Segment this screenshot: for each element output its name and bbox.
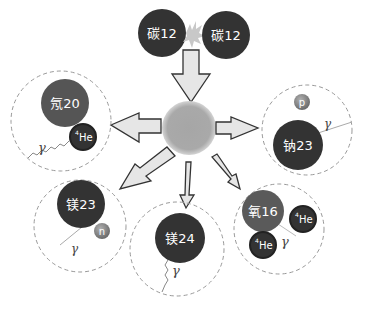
arrow-downright-icon [212, 154, 240, 189]
svg-text:γ: γ [71, 242, 79, 256]
svg-text:He: He [259, 240, 273, 251]
arrow-down-icon [172, 50, 210, 102]
svg-text:镁24: 镁24 [165, 231, 195, 246]
svg-text:He: He [79, 132, 93, 143]
reactant-carbon12-left: 碳12 [138, 9, 186, 57]
svg-text:碳12: 碳12 [147, 26, 177, 41]
product-o16: 氧16 4 He 4 He γ [234, 184, 324, 274]
product-na23: p γ 钠23 [262, 85, 352, 175]
arrow-left-icon [111, 113, 161, 142]
svg-text:镁23: 镁23 [66, 197, 96, 212]
svg-text:γ: γ [172, 263, 180, 278]
svg-text:p: p [299, 97, 305, 108]
svg-text:钠23: 钠23 [283, 138, 313, 153]
svg-text:氧16: 氧16 [248, 204, 278, 219]
collision-spark-icon [183, 21, 205, 48]
product-ne20: 氖20 γ 4 He [11, 71, 111, 171]
arrow-downleft-icon [120, 147, 175, 189]
svg-text:γ: γ [38, 140, 46, 155]
svg-text:氖20: 氖20 [50, 96, 80, 111]
product-mg24: γ 镁24 [130, 202, 224, 296]
svg-text:γ: γ [281, 234, 289, 249]
arrow-down-small-icon [180, 162, 194, 208]
reactant-carbon12-right: 碳12 [202, 11, 250, 59]
compound-nucleus [162, 101, 216, 155]
svg-text:γ: γ [324, 117, 332, 131]
arrow-right-icon [216, 117, 258, 139]
product-mg23: γ 镁23 n [34, 180, 126, 272]
reaction-diagram: 碳12 碳12 氖20 γ 4 He p γ 钠23 γ [0, 0, 367, 309]
svg-text:n: n [99, 226, 105, 237]
svg-text:He: He [299, 214, 313, 225]
svg-text:碳12: 碳12 [211, 28, 241, 43]
